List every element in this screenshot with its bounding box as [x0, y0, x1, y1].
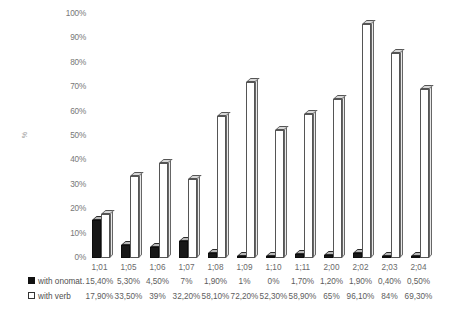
- data-cell-verb: 58,10%: [201, 291, 230, 303]
- bar-verb[interactable]: [188, 179, 197, 258]
- bar-verb[interactable]: [246, 82, 255, 258]
- bar-group: [378, 14, 407, 258]
- legend-label-onomat: with onomat.: [38, 277, 84, 286]
- data-cell-onomat: 7%: [172, 276, 201, 288]
- x-axis-category-label: 2;00: [317, 262, 346, 274]
- bar-side-face: [139, 172, 142, 258]
- open-square-icon: [28, 292, 35, 299]
- table-row-onomat: with onomat. 15,40%5,30%4,50%7%1,90%1%0%…: [0, 276, 449, 290]
- bar-group: [291, 14, 320, 258]
- table-row-verb: with verb 17,90%33,50%39%32,20%58,10%72,…: [0, 291, 449, 305]
- legend-label-verb: with verb: [38, 292, 71, 301]
- bar-front-face: [188, 179, 197, 258]
- bar-side-face: [284, 126, 287, 258]
- y-axis-title: %: [16, 124, 34, 146]
- data-cell-verb: 17,90%: [85, 291, 114, 303]
- bar-group: [88, 14, 117, 258]
- bar-verb[interactable]: [159, 163, 168, 258]
- y-axis-tick-label: 20%: [52, 205, 86, 213]
- data-cell-onomat: 0,50%: [404, 276, 433, 288]
- data-cell-onomat: 1,90%: [201, 276, 230, 288]
- bar-front-face: [217, 116, 226, 258]
- data-cell-onomat: 1,90%: [346, 276, 375, 288]
- y-axis-tick-label: 50%: [52, 132, 86, 140]
- data-cell-verb: 52,30%: [259, 291, 288, 303]
- bar-group: [146, 14, 175, 258]
- y-axis: 100%90%80%70%60%50%40%30%20%10%0%: [52, 8, 86, 264]
- bar-verb[interactable]: [101, 214, 110, 258]
- bar-front-face: [420, 89, 429, 258]
- bar-side-face: [371, 19, 374, 258]
- bar-onomat[interactable]: [179, 241, 188, 258]
- data-cell-verb: 84%: [375, 291, 404, 303]
- data-cell-onomat: 4,50%: [143, 276, 172, 288]
- bar-front-face: [246, 82, 255, 258]
- bar-side-face: [313, 110, 316, 258]
- bar-side-face: [342, 95, 345, 258]
- y-axis-tick-label: 30%: [52, 181, 86, 189]
- bar-side-face: [255, 78, 258, 258]
- x-axis-category-label: 1;09: [230, 262, 259, 274]
- y-axis-tick-label: 80%: [52, 59, 86, 67]
- bar-verb[interactable]: [275, 130, 284, 258]
- bar-front-face: [150, 247, 159, 258]
- data-cell-verb: 65%: [317, 291, 346, 303]
- x-axis-category-label: 2;02: [346, 262, 375, 274]
- bar-verb[interactable]: [130, 176, 139, 258]
- bar-group: [262, 14, 291, 258]
- x-axis-category-label: 2;03: [375, 262, 404, 274]
- bar-group: [204, 14, 233, 258]
- bar-group: [175, 14, 204, 258]
- bar-front-face: [101, 214, 110, 258]
- x-axis-category-label: 1;01: [85, 262, 114, 274]
- bar-verb[interactable]: [304, 114, 313, 258]
- bar-verb[interactable]: [333, 99, 342, 258]
- bar-front-face: [391, 53, 400, 258]
- table-row-categories: 1;011;051;061;071;081;091;101;112;002;02…: [0, 262, 449, 276]
- data-cell-verb: 96,10%: [346, 291, 375, 303]
- bar-side-face: [226, 112, 229, 258]
- data-cell-verb: 58,90%: [288, 291, 317, 303]
- data-cell-onomat: 5,30%: [114, 276, 143, 288]
- data-cell-onomat: 1%: [230, 276, 259, 288]
- bar-onomat[interactable]: [92, 220, 101, 258]
- x-axis-category-label: 1;05: [114, 262, 143, 274]
- bar-side-face: [197, 175, 200, 258]
- bar-front-face: [121, 245, 130, 258]
- bar-front-face: [362, 24, 371, 258]
- bar-verb[interactable]: [391, 53, 400, 258]
- x-axis-category-label: 1;11: [288, 262, 317, 274]
- bar-front-face: [179, 241, 188, 258]
- bar-side-face: [400, 49, 403, 258]
- x-axis-category-label: 1;08: [201, 262, 230, 274]
- bar-verb[interactable]: [420, 89, 429, 258]
- bar-group: [117, 14, 146, 258]
- bar-front-face: [304, 114, 313, 258]
- data-cell-verb: 69,30%: [404, 291, 433, 303]
- y-axis-tick-label: 60%: [52, 108, 86, 116]
- plot-area: [88, 14, 436, 258]
- bar-side-face: [429, 85, 432, 258]
- bar-verb[interactable]: [217, 116, 226, 258]
- y-axis-tick-label: 40%: [52, 156, 86, 164]
- bar-onomat[interactable]: [150, 247, 159, 258]
- x-axis-category-label: 1;06: [143, 262, 172, 274]
- bar-group: [407, 14, 436, 258]
- data-cell-verb: 39%: [143, 291, 172, 303]
- bar-front-face: [159, 163, 168, 258]
- bar-side-face: [168, 159, 171, 258]
- bar-onomat[interactable]: [121, 245, 130, 258]
- bar-group: [349, 14, 378, 258]
- data-cell-onomat: 0,40%: [375, 276, 404, 288]
- bar-verb[interactable]: [362, 24, 371, 258]
- data-cell-verb: 72,20%: [230, 291, 259, 303]
- bar-front-face: [92, 220, 101, 258]
- data-cell-onomat: 15,40%: [85, 276, 114, 288]
- y-axis-tick-label: 70%: [52, 83, 86, 91]
- bar-front-face: [275, 130, 284, 258]
- column-chart: % 100%90%80%70%60%50%40%30%20%10%0% 1;01…: [0, 0, 449, 315]
- y-axis-tick-label: 100%: [52, 10, 86, 18]
- data-cell-verb: 33,50%: [114, 291, 143, 303]
- bar-side-face: [110, 210, 113, 258]
- filled-square-icon: [28, 277, 35, 284]
